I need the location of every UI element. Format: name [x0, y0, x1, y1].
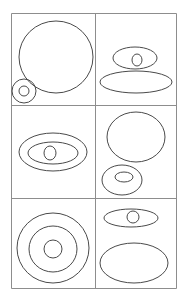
cell-bottom-left-middle-ring	[29, 226, 77, 272]
cell-middle-left-outer-ellipse	[19, 133, 87, 171]
cell-top-left-small-inner-circle	[19, 86, 29, 96]
cell-middle-right-large-circle	[107, 112, 165, 162]
cell-top-left	[12, 21, 93, 103]
cell-top-right-upper-ellipse-inner-circle	[132, 54, 142, 66]
grid-lines	[12, 14, 177, 289]
cell-bottom-right-lower-large-ellipse	[100, 243, 168, 283]
figure-root	[0, 0, 184, 298]
cell-middle-left-inner-ellipse	[28, 142, 78, 164]
cell-top-left-small-outer-circle	[12, 79, 36, 103]
cell-bottom-right-upper-ellipse-inner-circle	[127, 211, 139, 223]
cell-bottom-left-center-circle	[44, 240, 62, 258]
cell-top-right-lower-wide-ellipse	[100, 71, 172, 93]
cell-middle-right	[102, 112, 165, 195]
cell-middle-right-lower-oval	[102, 165, 142, 195]
cell-top-left-large-circle	[19, 21, 93, 93]
cell-middle-left	[19, 133, 87, 171]
cell-middle-left-center-circle	[44, 146, 56, 160]
shape-grid-figure	[0, 0, 184, 298]
cell-top-right	[100, 47, 172, 93]
grid-frame	[12, 14, 177, 289]
cell-bottom-left	[17, 213, 89, 283]
cell-middle-right-lower-oval-inner-ellipse	[115, 172, 133, 182]
cell-bottom-right	[100, 209, 168, 283]
